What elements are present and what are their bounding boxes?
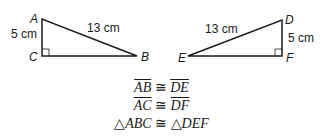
vertex-c: C	[29, 50, 38, 64]
segment-de: DE	[170, 80, 189, 95]
vertex-e: E	[178, 51, 187, 65]
triangle-abc-name: ABC	[125, 116, 151, 131]
label-side-ac: 5 cm	[11, 27, 37, 41]
right-angle-mark-f	[275, 49, 282, 56]
triangle-def: D F E 13 cm 5 cm	[178, 13, 314, 65]
vertex-f: F	[286, 51, 294, 65]
vertex-a: A	[29, 12, 38, 26]
congruent-symbol: ≅	[155, 98, 167, 113]
statement-triangles: △ABC ≅ △DEF	[0, 115, 323, 132]
statement-ab-de: AB ≅ DE	[0, 79, 323, 96]
congruent-symbol: ≅	[155, 116, 167, 131]
triangle-def-name: DEF	[182, 116, 209, 131]
segment-ab: AB	[134, 80, 151, 95]
statement-ac-df: AC ≅ DF	[0, 97, 323, 114]
label-side-de: 13 cm	[205, 22, 238, 36]
segment-df: DF	[171, 98, 190, 113]
triangle-symbol: △	[114, 116, 125, 131]
vertex-b: B	[141, 50, 149, 64]
segment-ac: AC	[134, 98, 152, 113]
vertex-d: D	[285, 13, 294, 27]
label-side-df: 5 cm	[288, 31, 314, 45]
triangle-abc: A C B 5 cm 13 cm	[11, 12, 149, 64]
triangle-symbol: △	[171, 116, 182, 131]
congruent-symbol: ≅	[155, 80, 167, 95]
right-angle-mark-c	[42, 49, 49, 56]
label-side-ab: 13 cm	[87, 21, 120, 35]
